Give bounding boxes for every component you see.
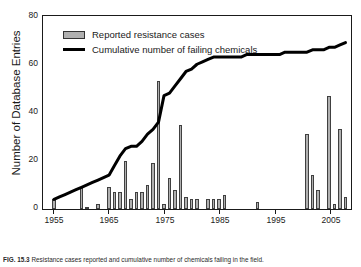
legend-label: Reported resistance cases (92, 30, 204, 40)
figure-caption: FIG. 15.3 Resistance cases reported and … (3, 256, 359, 267)
figure-caption-label: FIG. 15.3 (3, 256, 30, 263)
legend-bar-swatch-icon (63, 31, 85, 39)
x-tick-label: 2005 (311, 216, 351, 225)
x-tick-label: 1975 (145, 216, 185, 225)
x-tick-label: 1965 (89, 216, 129, 225)
plot-area: Reported resistance cases Cumulative num… (42, 15, 352, 210)
x-tick-label: 1995 (256, 216, 296, 225)
cumulative-line (54, 43, 346, 200)
x-tick-mark (219, 210, 220, 214)
x-tick-mark (164, 210, 165, 214)
legend-line-swatch-icon (63, 48, 85, 51)
x-tick-mark (330, 210, 331, 214)
figure-caption-text: Resistance cases reported and cumulative… (31, 256, 263, 263)
x-tick-label: 1955 (34, 216, 74, 225)
legend-label: Cumulative number of failing chemicals (92, 45, 257, 55)
legend-item-bars: Reported resistance cases (63, 28, 257, 41)
y-tick-label: 0 (12, 203, 38, 212)
x-tick-mark (275, 210, 276, 214)
y-axis-title: Number of Database Entries (10, 3, 22, 203)
x-tick-label: 1985 (200, 216, 240, 225)
x-tick-mark (108, 210, 109, 214)
chart-legend: Reported resistance cases Cumulative num… (63, 28, 257, 58)
legend-item-line: Cumulative number of failing chemicals (63, 43, 257, 56)
figure-container: 80 60 40 20 0 Number of Database Entries… (0, 0, 361, 267)
x-tick-mark (53, 210, 54, 214)
